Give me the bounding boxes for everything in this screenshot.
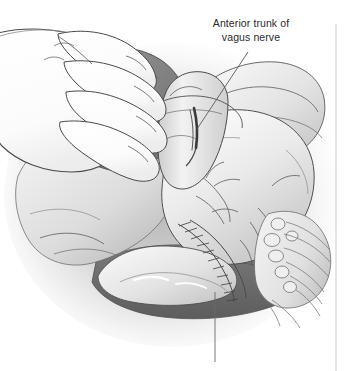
vagus-nerve-label: Anterior trunk of vagus nerve xyxy=(186,17,316,44)
medical-illustration-figure: Anterior trunk of vagus nerve xyxy=(0,0,357,371)
illustration-canvas xyxy=(0,0,357,371)
vagus-nerve-label-line1: Anterior trunk of xyxy=(186,17,316,31)
vagus-nerve-label-line2: vagus nerve xyxy=(186,31,316,45)
